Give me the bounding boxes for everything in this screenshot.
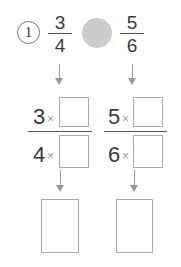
left-conversion-denominator: 4 [33, 144, 45, 166]
down-arrow-icon [59, 64, 60, 78]
left-conversion-numerator: 3 [33, 106, 45, 128]
times-sign: × [122, 150, 129, 162]
down-arrow-head-icon [56, 185, 64, 192]
right-fraction-numerator: 5 [121, 13, 143, 32]
times-sign: × [47, 150, 54, 162]
left-fraction-denominator: 4 [49, 36, 71, 55]
left-fraction-numerator: 3 [49, 13, 71, 32]
left-answer-box[interactable] [41, 199, 79, 253]
right-numerator-multiplier-input[interactable] [133, 97, 163, 127]
down-arrow-icon [60, 170, 61, 185]
down-arrow-icon [134, 170, 135, 185]
left-fraction-bar [48, 33, 72, 34]
times-sign: × [47, 113, 54, 125]
right-fraction-denominator: 6 [121, 36, 143, 55]
right-conversion-denominator: 6 [108, 144, 120, 166]
right-denominator-multiplier-input[interactable] [133, 135, 163, 168]
down-arrow-head-icon [130, 185, 138, 192]
problem-number-badge: 1 [17, 21, 40, 44]
right-answer-box[interactable] [116, 199, 153, 253]
right-conversion-fraction-bar [104, 131, 167, 132]
times-sign: × [122, 113, 129, 125]
down-arrow-icon [132, 64, 133, 78]
left-denominator-multiplier-input[interactable] [59, 135, 89, 168]
right-fraction-bar [120, 33, 144, 34]
down-arrow-head-icon [128, 78, 136, 85]
left-conversion-fraction-bar [28, 131, 92, 132]
comparison-symbol-input[interactable] [82, 18, 112, 48]
left-numerator-multiplier-input[interactable] [59, 97, 89, 127]
right-conversion-numerator: 5 [108, 106, 120, 128]
down-arrow-head-icon [55, 78, 63, 85]
